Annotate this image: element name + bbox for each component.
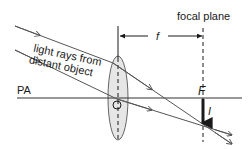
image-label: I bbox=[208, 105, 211, 117]
focal-length-label: f bbox=[156, 30, 160, 42]
lens-diagram: focal plane f PA F I light rays from dis… bbox=[0, 0, 251, 150]
ray-upper-arrow bbox=[15, 26, 40, 36]
focal-plane-label: focal plane bbox=[177, 10, 230, 22]
focal-point-label: F bbox=[198, 84, 206, 98]
principal-axis-label: PA bbox=[17, 84, 32, 96]
